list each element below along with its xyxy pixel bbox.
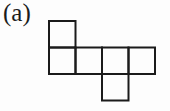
cube-net-diagram <box>0 0 170 111</box>
grid-square <box>76 48 103 75</box>
grid-square <box>49 48 76 75</box>
grid-square <box>49 21 76 48</box>
grid-square <box>129 48 156 75</box>
cube-net-figure-panel: (a) <box>0 0 170 111</box>
grid-square <box>102 74 129 101</box>
grid-square <box>102 48 129 75</box>
